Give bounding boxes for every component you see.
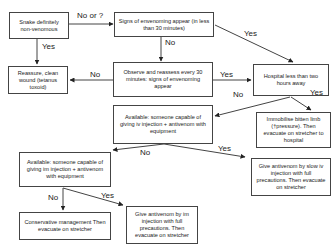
edge-label-yes-hospital-1: Yes [244, 29, 257, 38]
node-give-im: Give antivenom by im injection with full… [126, 206, 198, 244]
edge-label-no-available-im: No [140, 148, 150, 157]
edge-label-no-or-q: No or ? [77, 11, 103, 20]
edge-label-no-available-iv: No [233, 90, 243, 99]
node-reassure: Reassure, clean wound (tetanus toxoid) [8, 66, 68, 94]
arrow-available-iv-to-give-iv [164, 144, 245, 157]
node-observe: Observe and reassess every 30 minutes: s… [113, 62, 213, 97]
arrow-hospital-to-immobilise [291, 97, 311, 110]
node-text: Available: someone capable of giving iv … [117, 114, 209, 135]
node-text: Signs of envenoming appear (in less than… [118, 18, 210, 32]
node-available-im: Available: someone capable of giving im … [19, 152, 111, 187]
node-text: Give antivenom by im injection with full… [130, 211, 194, 239]
node-immobilise: Immobilise bitten limb (†pressure). Then… [256, 112, 331, 148]
arrow-available-iv-to-available-im [113, 144, 164, 150]
edge-label-yes-give-im: Yes [101, 191, 114, 200]
edge-label-no-observe: No [165, 38, 175, 47]
node-text: Hospital less than two hours away [257, 73, 325, 87]
edge-label-yes-give-iv: Yes [218, 144, 231, 153]
edge-label-yes-hospital-2: Yes [220, 70, 233, 79]
edge-label-no-conservative: No [48, 193, 58, 202]
node-text: Give antivenom by slow iv injection with… [255, 163, 327, 191]
node-text: Snake definitely non-venomous [13, 19, 65, 33]
node-give-iv: Give antivenom by slow iv injection with… [251, 158, 331, 196]
node-text: Reassure, clean wound (tetanus toxoid) [12, 70, 64, 91]
edge-label-no-reassure: No [90, 70, 100, 79]
node-available-iv: Available: someone capable of giving iv … [113, 105, 213, 144]
edge-label-yes-immobilise: Yes [310, 88, 323, 97]
edge-label-yes-reassure: Yes [42, 42, 55, 51]
node-signs-envenoming: Signs of envenoming appear (in less than… [114, 12, 214, 37]
node-text: Immobilise bitten limb (†pressure). Then… [260, 116, 327, 144]
node-text: Available: someone capable of giving im … [23, 159, 107, 180]
node-text: Observe and reassess every 30 minutes: s… [117, 69, 209, 90]
node-conservative: Conservative management Then evacuate on… [19, 212, 111, 240]
node-text: Conservative management Then evacuate on… [23, 219, 107, 233]
node-snake-nonvenomous: Snake definitely non-venomous [9, 12, 69, 39]
